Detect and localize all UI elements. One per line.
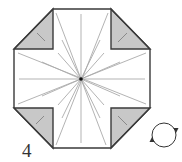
step-number: 4 <box>22 141 32 160</box>
origami-step-diagram <box>0 0 182 162</box>
center-point <box>79 77 83 81</box>
turn-over-icon <box>150 123 179 147</box>
